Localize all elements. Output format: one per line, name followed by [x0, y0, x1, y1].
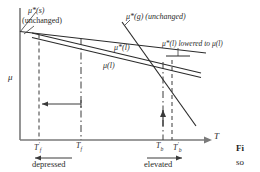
caption-fragment-line2: so	[236, 157, 244, 167]
tb-prime-sub: b	[179, 147, 182, 153]
x-axis-arrowhead	[204, 137, 212, 144]
tf-sub: f	[80, 146, 82, 152]
solid-curve-label: μ*(s)	[28, 7, 44, 15]
x-axis-label: T	[214, 132, 219, 141]
tf-prime-sub: f	[40, 147, 42, 153]
caption-fragment-line1: Fi	[236, 143, 244, 153]
y-axis-label: μ	[8, 73, 13, 82]
pure-liquid-label: μ*(l)	[114, 44, 130, 52]
gas-curve-label: μ*(g) (unchanged)	[126, 13, 186, 21]
tick-label-tf: Tf	[76, 142, 82, 152]
tick-label-tb-prime: T′b	[173, 142, 182, 154]
tick-label-tb: Tb	[156, 142, 163, 152]
axis-group	[20, 8, 212, 143]
tick-label-tf-prime: T′f	[34, 142, 41, 154]
liquid-lowered-label: μ*(l) lowered to μ(l)	[162, 40, 223, 48]
tb-sub: b	[160, 146, 163, 152]
elevated-label: elevated	[144, 160, 172, 169]
solid-curve-note: (unchanged)	[22, 17, 62, 25]
chemical-potential-diagram: μ*(s) (unchanged) μ*(g) (unchanged) μ*(l…	[0, 0, 260, 172]
depressed-label: depressed	[32, 160, 66, 169]
solution-liquid-label: μ(l)	[103, 62, 115, 70]
